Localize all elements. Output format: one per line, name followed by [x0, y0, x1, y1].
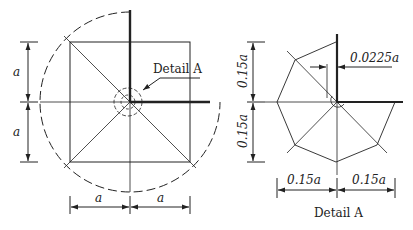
- diagonal-2: [64, 102, 130, 168]
- main-view: [20, 10, 220, 214]
- diagram-canvas: a a a a Detail A 0.15a 0.15a 0.15: [0, 0, 413, 230]
- dim-label-vertical-lower: a: [13, 125, 20, 139]
- detail-dim-label-horizontal-right: 0.15a: [352, 173, 386, 187]
- detail-dim-label-vertical-lower: 0.15a: [236, 114, 250, 148]
- detail-offset-label: 0.0225a: [350, 51, 399, 65]
- callout-leader: [143, 78, 200, 90]
- detail-dim-label-horizontal-left: 0.15a: [287, 173, 321, 187]
- dim-label-vertical-upper: a: [13, 65, 20, 79]
- detail-dim-label-vertical-upper: 0.15a: [236, 54, 250, 88]
- detail-diagonal-2: [287, 102, 337, 153]
- dim-label-horizontal-right: a: [157, 191, 164, 205]
- callout-label: Detail A: [153, 62, 202, 76]
- dim-label-horizontal-left: a: [95, 191, 102, 205]
- detail-caption: Detail A: [314, 206, 363, 220]
